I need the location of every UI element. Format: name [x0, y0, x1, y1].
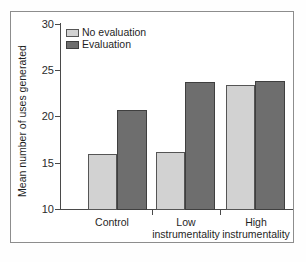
legend-item-evaluation: Evaluation: [66, 39, 146, 50]
bar-control-no-evaluation: [88, 154, 117, 210]
bar-high-instrumentality-no-evaluation: [226, 85, 255, 210]
y-axis-line: [60, 23, 61, 210]
y-tick-label-10: 10: [14, 204, 54, 215]
legend-item-no-evaluation: No evaluation: [66, 27, 146, 38]
x-category-label-high-line2: instrumentality: [220, 228, 292, 240]
x-category-label-control: Control: [77, 216, 147, 228]
x-category-label-high-instrumentality: High instrumentality: [220, 216, 292, 240]
bar-low-instrumentality-no-evaluation: [156, 152, 185, 210]
x-category-label-low-instrumentality: Low instrumentality: [150, 216, 222, 240]
legend-swatch-icon-evaluation: [66, 41, 79, 49]
y-tick-30: [55, 24, 60, 25]
bar-low-instrumentality-evaluation: [185, 82, 215, 210]
y-tick-25: [55, 70, 60, 71]
x-category-label-low-line1: Low: [176, 216, 195, 228]
y-tick-15: [55, 163, 60, 164]
x-tick-2: [220, 210, 221, 215]
y-axis-title: Mean number of uses generated: [16, 41, 28, 201]
x-category-label-high-line1: High: [245, 216, 267, 228]
legend-swatch-icon-no-evaluation: [66, 29, 79, 37]
bar-high-instrumentality-evaluation: [255, 81, 285, 210]
x-category-label-control-line1: Control: [95, 216, 129, 228]
y-tick-label-30: 30: [14, 19, 54, 30]
x-tick-1: [152, 210, 153, 215]
bar-chart-plot: 30 25 20 15 10 Mean number of uses gener…: [0, 0, 306, 262]
legend-label-evaluation: Evaluation: [82, 39, 131, 50]
bar-control-evaluation: [117, 110, 147, 210]
y-tick-10: [55, 209, 60, 210]
legend-label-no-evaluation: No evaluation: [82, 27, 146, 38]
x-category-label-low-line2: instrumentality: [150, 228, 222, 240]
y-tick-20: [55, 116, 60, 117]
chart-legend: No evaluation Evaluation: [66, 27, 146, 51]
figure-canvas: 30 25 20 15 10 Mean number of uses gener…: [0, 0, 306, 262]
